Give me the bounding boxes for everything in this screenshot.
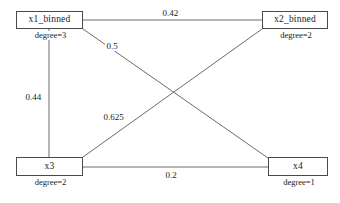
edge-weight-x3-x4: 0.2 bbox=[164, 171, 178, 180]
node-x4[interactable]: x4 bbox=[268, 157, 328, 176]
node-degree-x1-binned: degree=3 bbox=[16, 31, 85, 40]
node-x3[interactable]: x3 bbox=[16, 157, 83, 176]
node-label: x3 bbox=[45, 162, 55, 172]
node-label: x2_binned bbox=[274, 15, 316, 25]
edge-weight-x1-x2: 0.42 bbox=[161, 9, 180, 18]
edge-weight-x3-x2: 0.625 bbox=[102, 113, 125, 122]
node-degree-x2-binned: degree=2 bbox=[262, 31, 330, 40]
node-label: x1_binned bbox=[29, 15, 71, 25]
edge-weight-x1-x3: 0.44 bbox=[24, 93, 43, 102]
graph-diagram: x1_binned degree=3 x2_binned degree=2 x3… bbox=[0, 0, 340, 203]
edge-weight-x1-x4: 0.5 bbox=[105, 42, 119, 51]
node-label: x4 bbox=[293, 162, 303, 172]
node-x2-binned[interactable]: x2_binned bbox=[262, 11, 328, 29]
node-degree-x4: degree=1 bbox=[268, 178, 330, 187]
node-x1-binned[interactable]: x1_binned bbox=[16, 11, 83, 29]
node-degree-x3: degree=2 bbox=[16, 178, 85, 187]
